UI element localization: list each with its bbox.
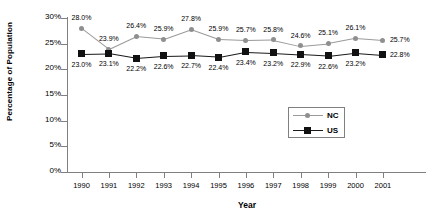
y-axis-tick-label: 30% — [31, 13, 61, 23]
series-line-nc — [218, 39, 245, 41]
x-axis-tick — [164, 173, 165, 178]
data-label-nc: 27.8% — [171, 15, 211, 23]
data-point-nc — [298, 43, 303, 48]
data-point-nc — [79, 26, 84, 31]
legend-item-nc: NC — [289, 108, 344, 123]
data-point-us — [160, 52, 167, 59]
line-chart: Percentage of Population 0%5%10%15%20%25… — [0, 0, 434, 223]
x-axis-tick — [82, 173, 83, 178]
y-axis-tick-label-text: 30% — [35, 13, 61, 21]
series-line-nc — [328, 38, 356, 44]
data-label-us: 22.8% — [390, 51, 410, 59]
data-point-us — [188, 52, 195, 59]
y-axis-tick-label-text: 25% — [35, 39, 61, 47]
x-axis-tick — [109, 173, 110, 178]
data-point-nc — [161, 37, 166, 42]
data-label-nc: 25.7% — [390, 36, 410, 44]
plot-area: 28.0%23.9%26.4%25.9%27.8%25.9%25.7%25.8%… — [67, 18, 425, 172]
x-axis-title: Year — [67, 200, 427, 210]
series-line-nc — [136, 36, 163, 40]
data-point-us — [133, 55, 140, 62]
data-point-us — [105, 50, 112, 57]
y-axis-tick-label-text: 10% — [35, 116, 61, 124]
data-point-us — [270, 49, 277, 56]
y-axis-tick-label-text: 15% — [35, 90, 61, 98]
y-axis-tick-label: 0% — [31, 167, 61, 177]
data-point-us — [215, 54, 222, 61]
data-point-nc — [271, 37, 276, 42]
legend-item-us: US — [289, 123, 344, 138]
y-axis-tick-label: 20% — [31, 64, 61, 74]
y-axis-tick-label-text: 20% — [35, 64, 61, 72]
x-axis-tick — [191, 173, 192, 178]
series-line-nc — [246, 40, 273, 42]
x-axis-tick — [246, 173, 247, 178]
x-axis-tick-label: 2001 — [363, 181, 403, 190]
data-point-us — [242, 48, 249, 55]
x-axis-tick — [273, 173, 274, 178]
data-point-us — [78, 50, 85, 57]
legend-label-us: US — [327, 126, 338, 135]
data-point-nc — [326, 41, 331, 46]
legend-label-nc: NC — [327, 111, 339, 120]
x-axis-tick — [328, 173, 329, 178]
y-axis-tick — [61, 172, 67, 173]
y-axis-tick-label: 10% — [31, 116, 61, 126]
series-line-nc — [301, 43, 328, 47]
data-point-nc — [189, 27, 194, 32]
x-axis-tick — [356, 173, 357, 178]
series-line-nc — [273, 40, 301, 47]
data-point-us — [379, 51, 386, 58]
y-axis-tick-label: 15% — [31, 90, 61, 100]
data-point-us — [325, 52, 332, 59]
chart-legend: NC US — [288, 107, 345, 138]
y-axis-tick-label-text: 5% — [35, 141, 61, 149]
y-axis-tick-label: 25% — [31, 39, 61, 49]
x-axis-tick — [136, 173, 137, 178]
data-point-us — [297, 51, 304, 58]
y-axis-tick-label: 5% — [31, 141, 61, 151]
data-label-nc: 26.1% — [336, 24, 376, 32]
data-label-nc: 23.9% — [89, 35, 129, 43]
y-axis-tick-label-text: 0% — [35, 167, 61, 175]
series-line-nc — [355, 38, 382, 41]
data-point-nc — [134, 34, 139, 39]
square-marker-icon — [304, 127, 311, 134]
data-label-us: 23.2% — [336, 60, 376, 68]
data-point-nc — [243, 38, 248, 43]
data-point-nc — [216, 37, 221, 42]
data-point-us — [352, 49, 359, 56]
y-axis-title: Percentage of Population — [0, 0, 20, 183]
x-axis-tick — [301, 173, 302, 178]
x-axis-tick — [219, 173, 220, 178]
data-label-nc: 25.9% — [144, 25, 184, 33]
circle-marker-icon — [305, 113, 310, 118]
data-label-nc: 28.0% — [62, 14, 102, 22]
x-axis-tick — [383, 173, 384, 178]
data-point-nc — [353, 36, 358, 41]
data-point-nc — [380, 38, 385, 43]
